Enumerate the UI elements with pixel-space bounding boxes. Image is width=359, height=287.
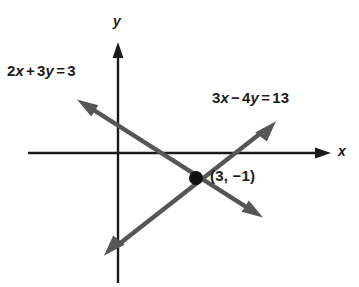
equation-2-variable-2: y — [251, 89, 260, 106]
intersection-point-label: (3, −1) — [210, 167, 255, 184]
equation-2-operator: − — [229, 89, 242, 106]
equation-1-coefficient-2: 3 — [37, 62, 46, 79]
equation-1-operator: + — [24, 62, 37, 79]
line1-arrow-lower-right-icon — [242, 200, 263, 217]
line-3x-minus-4y-equals-13 — [104, 121, 276, 256]
equation-label-1: 2x+3y=3 — [7, 62, 76, 79]
line2-segment — [115, 130, 265, 247]
line-2x-plus-3y-equals-3 — [77, 99, 263, 217]
x-axis — [28, 148, 331, 159]
equation-1-coefficient-1: 2 — [7, 62, 16, 79]
equation-1-equals-sign: = — [54, 62, 67, 79]
coordinate-plane-svg — [0, 0, 359, 287]
equation-1-variable-1: x — [16, 62, 25, 79]
line2-arrow-upper-right-icon — [255, 121, 276, 141]
x-axis-arrow-icon — [315, 148, 331, 159]
equation-1-right-side: 3 — [67, 62, 76, 79]
intersection-point-marker — [189, 171, 203, 185]
equation-2-coefficient-2: 4 — [242, 89, 251, 106]
equation-2-equals-sign: = — [259, 89, 272, 106]
line1-arrow-upper-left-icon — [77, 99, 98, 116]
graph-figure: 2x+3y=3 3x−4y=13 (3, −1) x y — [0, 0, 359, 287]
equation-label-2: 3x−4y=13 — [212, 89, 289, 106]
equation-2-coefficient-1: 3 — [212, 89, 221, 106]
line2-arrow-lower-left-icon — [104, 236, 125, 256]
y-axis-label: y — [113, 13, 121, 29]
equation-1-variable-2: y — [46, 62, 55, 79]
y-axis-arrow-icon — [113, 42, 124, 58]
equation-2-variable-1: x — [221, 89, 230, 106]
x-axis-label: x — [338, 143, 346, 159]
equation-2-right-side: 13 — [272, 89, 289, 106]
